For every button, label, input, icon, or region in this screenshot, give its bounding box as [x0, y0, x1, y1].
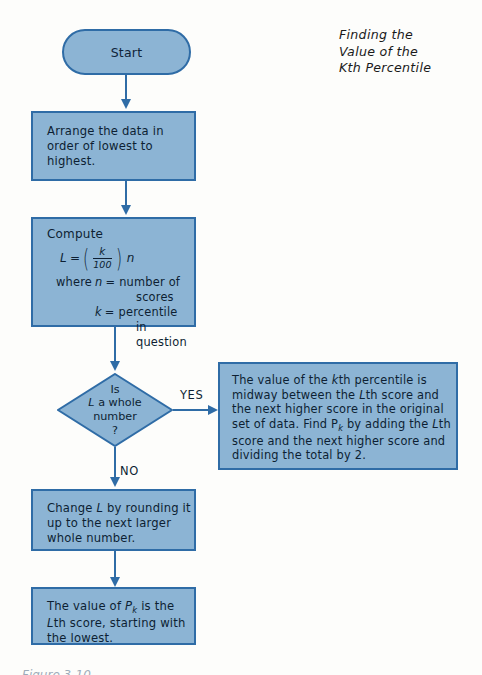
- branch-label-yes: YES: [180, 388, 203, 402]
- branch-label-no: NO: [120, 464, 139, 478]
- definition-text-n: number of: [115, 275, 180, 290]
- decision-text: Is L a whole number ?: [57, 373, 173, 447]
- definition-symbol-n: n: [92, 275, 105, 290]
- arrange-text: Arrange the data in order of lowest to h…: [47, 124, 195, 168]
- change-text: Change L by rounding it up to the next l…: [47, 501, 195, 545]
- title-line-3: Kth Percentile: [339, 60, 479, 77]
- flowchart-node-arrange: Arrange the data in order of lowest to h…: [31, 111, 196, 181]
- decision-line-2: L a whole: [88, 396, 141, 410]
- decision-line-3: number: [93, 410, 137, 424]
- start-label: Start: [111, 45, 143, 60]
- formula-multiplier: n: [127, 251, 135, 266]
- decision-line-1: Is: [110, 383, 119, 397]
- definition-lead-k: [52, 305, 92, 320]
- flowchart-node-start: Start: [62, 29, 191, 75]
- compute-body: Compute L = ( k 100 ) n where n = number: [44, 227, 196, 349]
- formula-lhs: L: [60, 251, 67, 266]
- title-line-1: Finding the: [339, 27, 479, 44]
- definition-row-n: where n = number of: [52, 275, 196, 290]
- formula-numerator: k: [99, 246, 105, 257]
- decision-line-4: ?: [112, 424, 118, 438]
- flowchart-canvas: Finding the Value of the Kth Percentile …: [0, 0, 482, 675]
- flowchart-node-decision: Is L a whole number ?: [57, 373, 173, 447]
- compute-heading: Compute: [47, 227, 196, 242]
- formula-definitions: where n = number of scores k = percentil…: [52, 275, 196, 349]
- title-line-2: Value of the: [339, 44, 479, 61]
- definition-eq-n: =: [105, 275, 115, 290]
- figure-caption: Figure 3-10: [22, 668, 91, 675]
- definition-symbol-k: k: [92, 305, 105, 320]
- definition-row-k: k = percentile: [52, 305, 196, 320]
- flowchart-node-change: Change L by rounding it up to the next l…: [31, 489, 196, 551]
- flowchart-node-compute: Compute L = ( k 100 ) n where n = number: [31, 217, 196, 327]
- definition-cont-n: scores: [136, 290, 196, 305]
- percentile-formula: L = ( k 100 ) n: [60, 246, 196, 270]
- formula-denominator: 100: [93, 260, 112, 270]
- where-label: where: [52, 275, 92, 290]
- formula-fraction: k 100: [93, 246, 112, 270]
- formula-equals: =: [70, 251, 80, 266]
- definition-eq-k: =: [105, 305, 115, 320]
- page-title: Finding the Value of the Kth Percentile: [339, 27, 479, 77]
- flowchart-node-final: The value of Pk is the Lth score, starti…: [31, 587, 196, 645]
- decision-line-2-rest: a whole: [95, 396, 142, 409]
- final-text: The value of Pk is the Lth score, starti…: [47, 599, 195, 646]
- midway-text: The value of the kth percentile is midwa…: [232, 373, 454, 463]
- flowchart-node-midway: The value of the kth percentile is midwa…: [218, 362, 458, 470]
- definition-cont-k: in question: [136, 320, 196, 350]
- definition-text-k: percentile: [115, 305, 178, 320]
